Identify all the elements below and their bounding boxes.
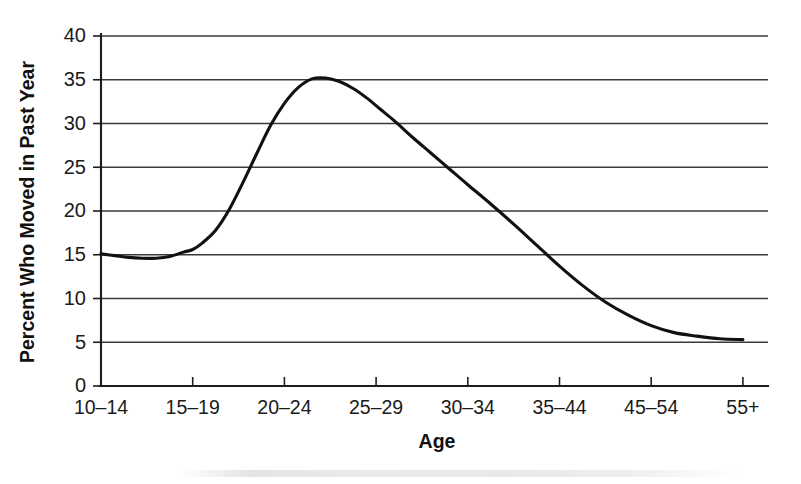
y-tick-label: 25	[64, 156, 86, 178]
y-tick-label: 0	[75, 374, 86, 396]
x-axis-title: Age	[419, 430, 456, 452]
y-tick-label: 10	[64, 287, 86, 309]
y-tick-label: 5	[75, 331, 86, 353]
x-tick-label: 45–54	[624, 396, 678, 418]
x-tick-label: 55+	[726, 396, 759, 418]
y-tick-label: 40	[64, 24, 86, 46]
x-tick-label: 20–24	[257, 396, 311, 418]
x-tick-label: 30–34	[441, 396, 495, 418]
x-tick-label: 10–14	[74, 396, 128, 418]
y-axis-title: Percent Who Moved in Past Year	[16, 61, 38, 363]
x-tick-label: 25–29	[349, 396, 403, 418]
x-tick-label: 15–19	[166, 396, 220, 418]
y-tick-label: 30	[64, 112, 86, 134]
chart-figure: 0510152025303540 10–1415–1920–2425–2930–…	[0, 0, 801, 484]
y-tick-label: 20	[64, 199, 86, 221]
y-tick-label: 15	[64, 243, 86, 265]
x-tick-label: 35–44	[532, 396, 586, 418]
line-chart: 0510152025303540 10–1415–1920–2425–2930–…	[0, 0, 801, 484]
y-tick-label: 35	[64, 68, 86, 90]
